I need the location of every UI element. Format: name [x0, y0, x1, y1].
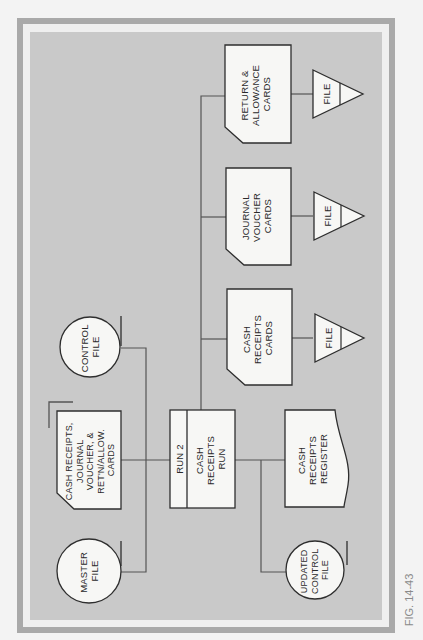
svg-text:FILE: FILE: [321, 84, 332, 105]
return-allowance-cards-node: RETURN & ALLOWANCE CARDS: [225, 45, 291, 143]
input-cards-node: CASH RECEIPTS, JOURNAL VOUCHER, & RET'N/…: [49, 402, 121, 509]
svg-text:RUN 2: RUN 2: [174, 444, 185, 474]
figure-caption: FIG. 14-43: [403, 574, 415, 627]
journal-voucher-cards-node: JOURNAL VOUCHER CARDS: [226, 168, 291, 265]
svg-text:FILE: FILE: [323, 328, 334, 349]
flowchart: RETURN & ALLOWANCE CARDS JOURNAL VOUCHER…: [0, 0, 423, 640]
svg-text:FILE: FILE: [322, 206, 333, 227]
master-file-node: MASTER FILE: [57, 539, 121, 603]
cash-receipts-cards-node: CASH RECEIPTS CARDS: [227, 289, 292, 385]
cash-receipts-run-node: RUN 2 CASH RECEIPTS RUN: [170, 410, 235, 508]
